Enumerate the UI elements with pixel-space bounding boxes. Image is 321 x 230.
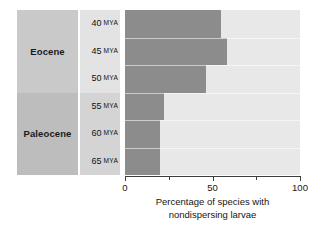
epoch-label-eocene: Eocene xyxy=(30,46,64,57)
epoch-column: Eocene Paleocene xyxy=(17,10,78,175)
mya-value: 40 xyxy=(91,19,101,28)
mya-value: 60 xyxy=(91,129,101,138)
x-axis-tick-label: 50 xyxy=(207,182,218,193)
x-axis-tick xyxy=(125,176,126,181)
bar-segment-nondispersing xyxy=(125,120,160,148)
mya-unit: MYA xyxy=(104,75,118,82)
epoch-band-paleocene: Paleocene xyxy=(17,93,78,176)
x-axis-title-line-2: nondispersing larvae xyxy=(125,209,300,222)
x-axis-tick xyxy=(169,176,170,180)
mya-value: 55 xyxy=(91,102,101,111)
mya-value: 45 xyxy=(91,47,101,56)
bar-segment-nondispersing xyxy=(125,38,227,66)
mya-cell: 65 MYA xyxy=(80,148,120,176)
mya-unit: MYA xyxy=(104,158,118,165)
mya-unit: MYA xyxy=(104,130,118,137)
epoch-band-eocene: Eocene xyxy=(17,10,78,93)
mya-value: 65 xyxy=(91,157,101,166)
x-axis-title: Percentage of species with nondispersing… xyxy=(125,196,300,221)
bar-row xyxy=(125,93,300,121)
x-axis-title-line-1: Percentage of species with xyxy=(125,196,300,209)
bar-segment-nondispersing xyxy=(125,10,221,38)
bar-row xyxy=(125,120,300,148)
mya-cell: 45 MYA xyxy=(80,38,120,66)
mya-column: 40 MYA 45 MYA 50 MYA 55 MYA 60 MYA 65 MY… xyxy=(80,10,120,175)
mya-value: 50 xyxy=(91,74,101,83)
mya-cell: 60 MYA xyxy=(80,120,120,148)
bar-row xyxy=(125,148,300,176)
bar-row xyxy=(125,10,300,38)
x-axis-tick-label: 100 xyxy=(292,182,308,193)
bar-row xyxy=(125,38,300,66)
mya-cell: 55 MYA xyxy=(80,93,120,121)
mya-unit: MYA xyxy=(104,20,118,27)
mya-unit: MYA xyxy=(104,103,118,110)
bar-row xyxy=(125,65,300,93)
mya-cell: 40 MYA xyxy=(80,10,120,38)
mya-unit: MYA xyxy=(104,48,118,55)
x-axis-tick xyxy=(256,176,257,180)
bar-segment-nondispersing xyxy=(125,93,164,121)
x-axis-tick xyxy=(213,176,214,181)
x-axis-tick xyxy=(300,176,301,181)
chart-figure: Eocene Paleocene 40 MYA 45 MYA 50 MYA 55… xyxy=(0,0,321,230)
x-axis-tick-label: 0 xyxy=(122,182,127,193)
plot-area xyxy=(125,10,300,175)
bar-segment-nondispersing xyxy=(125,148,160,176)
epoch-label-paleocene: Paleocene xyxy=(24,128,72,139)
mya-cell: 50 MYA xyxy=(80,65,120,93)
bar-segment-nondispersing xyxy=(125,65,206,93)
